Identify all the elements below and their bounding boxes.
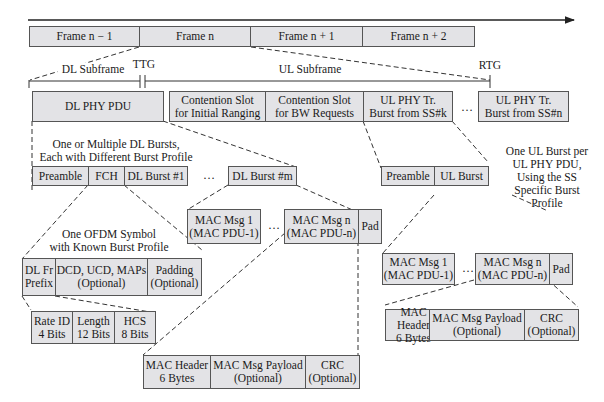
fch-padding: Padding (Optional) — [147, 258, 202, 296]
ul-phy-burst-ssk: UL PHY Tr. Burst from SS#k — [363, 91, 453, 122]
dl-burst-m: DL Burst #m — [228, 166, 297, 186]
dl-mac-msg-n: MAC Msg n (MAC PDU-n) — [284, 209, 359, 244]
dl-mac-payload: MAC Msg Payload (Optional) — [210, 355, 306, 389]
ttg-label: TTG — [131, 58, 157, 71]
ul-crc: CRC (Optional) — [524, 309, 579, 341]
ul-mac-msg-1: MAC Msg 1 (MAC PDU-1) — [382, 253, 455, 285]
frame-n: Frame n — [139, 26, 251, 47]
dl-subframe-label: DL Subframe — [58, 63, 128, 76]
ul-phy-burst-ssn: UL PHY Tr. Burst from SS#n — [478, 91, 569, 122]
ellipsis: … — [462, 261, 474, 276]
dl-mac-header: MAC Header 6 Bytes — [143, 355, 211, 389]
dl-bursts-annotation: One or Multiple DL Bursts, Each with Dif… — [32, 138, 200, 164]
length-field: Length 12 Bits — [72, 311, 115, 344]
dl-mac-msg-1: MAC Msg 1 (MAC PDU-1) — [187, 209, 261, 244]
ofdm-annotation: One OFDM Symbol with Known Burst Profile — [44, 228, 174, 254]
ul-mac-msg-n: MAC Msg n (MAC PDU-n) — [475, 253, 550, 285]
dl-preamble: Preamble — [32, 166, 89, 186]
fch: FCH — [88, 166, 125, 186]
dl-crc: CRC (Optional) — [305, 355, 360, 389]
ellipsis: … — [268, 218, 280, 233]
rtg-label: RTG — [476, 59, 504, 72]
frame-n-plus-2: Frame n + 2 — [362, 26, 475, 47]
ul-subframe-label: UL Subframe — [270, 63, 350, 76]
dcd-ucd-maps: DCD, UCD, MAPs (Optional) — [55, 258, 148, 296]
frame-n-minus-1: Frame n − 1 — [29, 26, 140, 47]
hcs-field: HCS 8 Bits — [114, 311, 156, 344]
wimax-frame-structure-diagram: Frame n − 1 Frame n Frame n + 1 Frame n … — [0, 0, 604, 402]
contention-slot-initial-ranging: Contention Slot for Initial Ranging — [169, 91, 266, 122]
dl-frame-prefix: DL Fr Prefix — [22, 258, 56, 296]
frame-n-plus-1: Frame n + 1 — [250, 26, 363, 47]
dl-burst-1: DL Burst #1 — [124, 166, 188, 186]
ellipsis: … — [461, 100, 473, 115]
contention-slot-bw-requests: Contention Slot for BW Requests — [265, 91, 364, 122]
ul-burst: UL Burst — [434, 166, 489, 186]
rate-id-field: Rate ID 4 Bits — [31, 311, 73, 344]
dl-phy-pdu: DL PHY PDU — [32, 91, 164, 122]
ul-pad: Pad — [549, 253, 573, 285]
ellipsis: … — [203, 168, 215, 183]
ul-burst-annotation: One UL Burst per UL PHY PDU, Using the S… — [492, 145, 602, 210]
ul-preamble: Preamble — [381, 166, 435, 186]
dl-pad: Pad — [358, 209, 382, 244]
ul-mac-payload: MAC Msg Payload (Optional) — [429, 309, 525, 341]
